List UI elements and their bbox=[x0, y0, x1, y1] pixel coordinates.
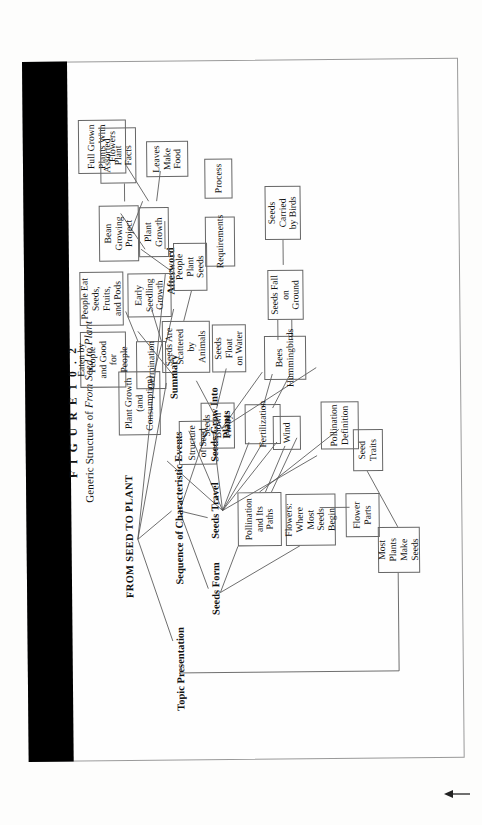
box-leaves-make-food[interactable]: Leaves Make Food bbox=[146, 141, 188, 177]
box-requirements[interactable]: Requirements bbox=[205, 216, 235, 266]
node-seeds-travel[interactable]: Seeds Travel bbox=[209, 473, 221, 549]
box-most-plants-make-seeds[interactable]: Most Plants Make Seeds bbox=[378, 527, 420, 573]
scanned-page: F I G U R E 1 0 . 2 Generic Structure of… bbox=[0, 0, 482, 825]
node-root[interactable]: FROM SEED TO PLANT bbox=[123, 461, 136, 611]
box-eaten-by-people-and-good-for-people[interactable]: Eaten by People and Good for People bbox=[80, 331, 127, 387]
box-pollination-definition[interactable]: Pollination Definition bbox=[321, 401, 359, 449]
box-people-eat-seeds-fruits-and-pods[interactable]: People Eat Seeds, Fruits, and Pods bbox=[79, 271, 124, 325]
box-process[interactable]: Process bbox=[204, 158, 232, 198]
node-topic-presentation[interactable]: Topic Presentation bbox=[175, 609, 188, 729]
box-bean-growing-project[interactable]: Bean Growing Project bbox=[99, 205, 140, 261]
box-pollination-and-its-paths[interactable]: Pollination and Its Paths bbox=[237, 492, 282, 546]
box-seeds-carried-by-birds[interactable]: Seeds Carried by Birds bbox=[264, 186, 301, 240]
box-structure-of-seed[interactable]: Structure of Seed bbox=[179, 421, 217, 465]
box-seeds-are-scattered-by-animals[interactable]: Seeds Are Scattered by Animals bbox=[162, 321, 210, 373]
box-early-seedling-growth[interactable]: Early Seedling Growth bbox=[127, 273, 171, 317]
box-bees-hummingbirds[interactable]: Bees Hummingbirds bbox=[264, 336, 306, 380]
box-fertilization[interactable]: Fertilization bbox=[245, 404, 281, 444]
box-flowers-where-most-seeds-begin[interactable]: Flowers: Where Most Seeds Begin bbox=[285, 493, 335, 545]
box-seeds-fall-on-ground[interactable]: Seeds Fall on Ground bbox=[267, 270, 303, 320]
box-assorted-plant-facts[interactable]: Assorted Plant Facts bbox=[100, 127, 137, 183]
box-plant-growth[interactable]: Plant Growth bbox=[139, 207, 169, 257]
figure-canvas: F I G U R E 1 0 . 2 Generic Structure of… bbox=[63, 58, 460, 762]
box-seeds-float-on-water[interactable]: Seeds Float on Water bbox=[212, 324, 246, 372]
box-flower-parts[interactable]: Flower Parts bbox=[345, 493, 379, 537]
page-turn-arrow-icon bbox=[444, 789, 470, 799]
box-people-plant-seeds[interactable]: People Plant Seeds bbox=[173, 243, 207, 291]
node-seeds-form[interactable]: Seeds Form bbox=[210, 553, 222, 625]
